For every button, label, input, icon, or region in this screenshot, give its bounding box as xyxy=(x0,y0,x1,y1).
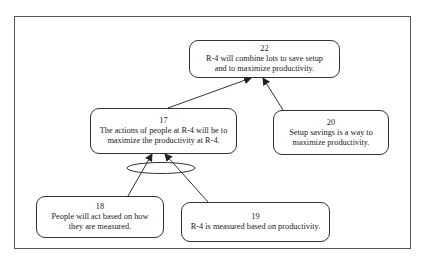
arrow-20-to-22 xyxy=(263,78,283,110)
node-text: R-4 is measured based on productivity. xyxy=(184,222,328,232)
node-17: 17 The actions of people at R-4 will be … xyxy=(90,108,237,154)
node-19: 19 R-4 is measured based on productivity… xyxy=(181,202,330,242)
arrow-18-to-17 xyxy=(128,154,152,196)
node-number: 22 xyxy=(260,44,268,54)
arrow-17-to-22 xyxy=(168,78,251,108)
node-text: The actions of people at R-4 will be to … xyxy=(96,126,232,146)
node-20: 20 Setup savings is a way to maximize pr… xyxy=(273,110,389,155)
node-text: R-4 will combine lots to save setup and … xyxy=(205,54,325,74)
node-number: 19 xyxy=(251,212,259,222)
node-18: 18 People will act based on how they are… xyxy=(36,196,164,238)
node-text: People will act based on how they are me… xyxy=(50,212,150,232)
node-text: Setup savings is a way to maximize produ… xyxy=(276,128,386,148)
node-22: 22 R-4 will combine lots to save setup a… xyxy=(189,40,340,78)
node-number: 17 xyxy=(159,116,167,126)
node-number: 18 xyxy=(96,202,104,212)
and-connector-ellipse xyxy=(127,163,195,174)
node-number: 20 xyxy=(327,118,335,128)
arrow-19-to-17 xyxy=(165,154,208,202)
